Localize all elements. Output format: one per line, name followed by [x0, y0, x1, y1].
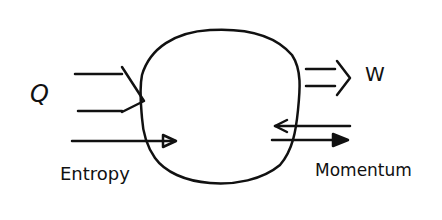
system-boundary [140, 30, 299, 184]
heat-label: Q [30, 80, 49, 108]
entropy-label: Entropy [60, 163, 130, 184]
momentum-in-arrow-icon [275, 120, 350, 132]
heat-arrow-icon [75, 67, 144, 112]
entropy-arrow-icon [72, 135, 176, 147]
momentum-out-arrow-icon [272, 134, 348, 146]
thermodynamic-system-diagram [0, 0, 442, 220]
momentum-label: Momentum [315, 160, 412, 180]
work-arrow-icon [306, 61, 350, 95]
work-label: W [365, 62, 385, 86]
